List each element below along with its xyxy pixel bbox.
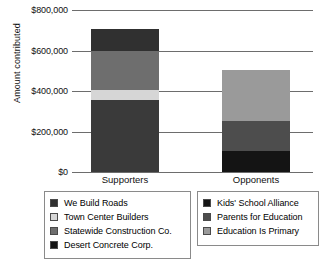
legend-item-label: Parents for Education (217, 212, 303, 222)
legend-item-label: We Build Roads (64, 198, 128, 208)
legend-swatch-icon (50, 241, 58, 249)
y-tick-label: $0 (58, 167, 68, 177)
bar-supporters[interactable] (91, 29, 159, 172)
category-label-supporters: Supporters (80, 174, 170, 185)
plot-area: $800,000$600,000$400,000$200,000$0 Suppo… (72, 10, 313, 172)
legend-item[interactable]: Town Center Builders (50, 210, 185, 224)
bar-segment[interactable] (91, 29, 159, 50)
stacked-bar-chart: Amount contributed $800,000$600,000$400,… (0, 0, 321, 263)
y-tick-label: $400,000 (31, 86, 68, 96)
category-label-opponents: Opponents (211, 174, 301, 185)
legend-item[interactable]: We Build Roads (50, 196, 185, 210)
legend-swatch-icon (203, 227, 211, 235)
legend-item[interactable]: Kids' School Alliance (203, 196, 313, 210)
bar-segment[interactable] (222, 121, 290, 150)
legend-supporters: We Build RoadsTown Center BuildersStatew… (44, 191, 191, 259)
bar-segment[interactable] (91, 90, 159, 100)
y-axis-title: Amount contributed (12, 0, 22, 128)
y-tick-label: $800,000 (31, 5, 68, 15)
bar-segment[interactable] (91, 51, 159, 90)
legend-item-label: Town Center Builders (64, 212, 149, 222)
legend-opponents: Kids' School AllianceParents for Educati… (197, 191, 319, 246)
legend-item-label: Desert Concrete Corp. (64, 240, 153, 250)
legend-item-label: Statewide Construction Co. (64, 226, 172, 236)
gridline: $800,000 (72, 10, 313, 11)
legend-swatch-icon (50, 213, 58, 221)
legend-item-label: Kids' School Alliance (217, 198, 299, 208)
legend-item[interactable]: Desert Concrete Corp. (50, 238, 185, 252)
legend-swatch-icon (203, 213, 211, 221)
legend-swatch-icon (203, 199, 211, 207)
bar-segment[interactable] (222, 151, 290, 172)
legend-swatch-icon (50, 199, 58, 207)
bar-opponents[interactable] (222, 70, 290, 172)
y-tick-label: $200,000 (31, 127, 68, 137)
gridline: $0 (72, 172, 313, 173)
legend-item[interactable]: Education Is Primary (203, 224, 313, 238)
legend-item-label: Education Is Primary (217, 226, 299, 236)
legend-swatch-icon (50, 227, 58, 235)
legend-item[interactable]: Statewide Construction Co. (50, 224, 185, 238)
y-tick-label: $600,000 (31, 46, 68, 56)
bar-segment[interactable] (222, 70, 290, 122)
bar-segment[interactable] (91, 100, 159, 172)
legend-item[interactable]: Parents for Education (203, 210, 313, 224)
